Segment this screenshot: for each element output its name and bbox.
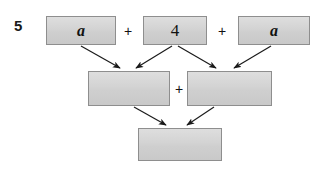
top-box-3[interactable]: a xyxy=(238,16,310,45)
middle-box-left[interactable] xyxy=(88,71,170,106)
worksheet-diagram-canvas: 5 a + 4 + a + xyxy=(0,0,327,174)
top-box-1[interactable]: a xyxy=(46,16,116,45)
top-box-3-label: a xyxy=(270,23,278,39)
arrow-middleleft-to-bottom xyxy=(134,107,166,125)
top-box-1-label: a xyxy=(77,23,85,39)
exercise-number: 5 xyxy=(14,18,22,33)
operator-plus-top-1: + xyxy=(124,24,132,38)
top-box-2-label: 4 xyxy=(171,22,180,39)
arrow-middleright-to-bottom xyxy=(187,107,214,125)
bottom-box[interactable] xyxy=(138,128,222,161)
arrow-top3-to-middleright xyxy=(234,46,271,68)
operator-plus-middle: + xyxy=(175,82,183,96)
top-box-2[interactable]: 4 xyxy=(143,16,207,45)
arrow-top2-to-middleleft xyxy=(136,46,172,68)
operator-plus-top-2: + xyxy=(218,24,226,38)
arrow-top1-to-middleleft xyxy=(81,46,120,68)
middle-box-right[interactable] xyxy=(187,71,272,106)
arrow-top2-to-middleright xyxy=(178,46,216,68)
